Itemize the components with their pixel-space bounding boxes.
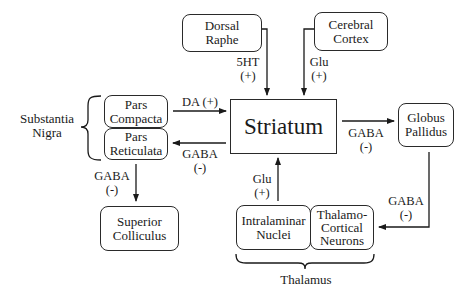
pars-reticulata-line2: Reticulata [110, 144, 163, 158]
node-dorsal-raphe: Dorsal Raphe [182, 14, 262, 52]
dorsal-raphe-line2: Raphe [205, 33, 238, 47]
globus-pallidus-line2: Pallidus [405, 125, 447, 139]
thalamus-label-text: Thalamus [270, 273, 342, 287]
node-striatum: Striatum [230, 99, 337, 154]
globus-pallidus-line1: Globus [407, 111, 445, 125]
edge-gp-tc-line1: GABA [384, 194, 428, 208]
edge-il-glu-line1: Glu [250, 172, 274, 186]
thalamocortical-line3: Neurons [320, 234, 364, 247]
edge-cortex-glu-line2: (+) [306, 69, 332, 83]
edge-5ht-line1: 5HT [232, 55, 264, 69]
cerebral-cortex-line2: Cortex [333, 32, 368, 46]
edge-label-pallidus-thalamocortical: GABA (-) [384, 194, 428, 222]
thalamus-label: Thalamus [270, 273, 342, 287]
node-thalamocortical-neurons: Thalamo- Cortical Neurons [310, 205, 374, 250]
substantia-nigra-line2: Nigra [14, 126, 80, 140]
node-cerebral-cortex: Cerebral Cortex [314, 12, 388, 51]
edge-label-cortex-glu: Glu (+) [306, 55, 332, 83]
edge-label-reticulata-colliculus: GABA (-) [90, 169, 134, 197]
edge-label-striatum-reticulata: GABA (-) [178, 147, 222, 175]
node-intralaminar-nuclei: Intralaminar Nuclei [236, 205, 311, 250]
edge-ret-sc-line1: GABA [90, 169, 134, 183]
superior-colliculus-line2: Colliculus [113, 229, 166, 243]
pars-compacta-line1: Pars [125, 98, 147, 112]
node-globus-pallidus: Globus Pallidus [398, 103, 454, 147]
pars-compacta-line2: Compacta [110, 112, 163, 126]
edge-label-da: DA (+) [176, 95, 224, 109]
node-pars-reticulata: Pars Reticulata [104, 128, 168, 160]
intralaminar-line2: Nuclei [256, 228, 291, 242]
edge-label-5ht: 5HT (+) [232, 55, 264, 83]
cerebral-cortex-line1: Cerebral [329, 18, 374, 32]
dorsal-raphe-line1: Dorsal [205, 19, 240, 33]
edge-label-striatum-pallidus: GABA (-) [344, 126, 388, 154]
substantia-nigra-brace [81, 96, 101, 160]
edge-str-ret-line1: GABA [178, 147, 222, 161]
basal-ganglia-diagram: Dorsal Raphe Cerebral Cortex Striatum Pa… [0, 0, 474, 303]
superior-colliculus-line1: Superior [117, 215, 162, 229]
edge-ret-sc-line2: (-) [90, 183, 134, 197]
edge-str-ret-line2: (-) [178, 161, 222, 175]
intralaminar-line1: Intralaminar [241, 214, 305, 228]
edge-cortex-glu-line1: Glu [306, 55, 332, 69]
edge-5ht-line2: (+) [232, 69, 264, 83]
pars-reticulata-line1: Pars [125, 130, 147, 144]
thalamus-brace [236, 254, 374, 269]
edge-il-glu-line2: (+) [250, 186, 274, 200]
edge-str-gp-line1: GABA [344, 126, 388, 140]
striatum-label: Striatum [244, 114, 323, 140]
substantia-nigra-label: Substantia Nigra [14, 112, 80, 140]
substantia-nigra-line1: Substantia [14, 112, 80, 126]
edge-str-gp-line2: (-) [344, 140, 388, 154]
edge-label-intralaminar-glu: Glu (+) [250, 172, 274, 200]
edge-da-text: DA (+) [176, 95, 224, 109]
edge-gp-tc-line2: (-) [384, 208, 428, 222]
node-pars-compacta: Pars Compacta [104, 95, 168, 128]
node-superior-colliculus: Superior Colliculus [100, 206, 179, 251]
